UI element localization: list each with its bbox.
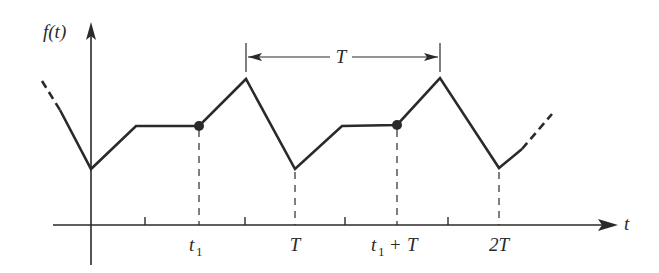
periodic-function-diagram: T f(t) t t 1 T t 1 + T 2T	[0, 0, 659, 273]
dashed-guides	[199, 130, 499, 225]
svg-text:t: t	[371, 234, 377, 255]
tick-label-2T: 2T	[489, 234, 511, 255]
x-axis-label: t	[624, 213, 630, 234]
point-t1	[194, 121, 204, 131]
y-axis-label: f(t)	[43, 21, 66, 43]
svg-text:t: t	[189, 234, 195, 255]
function-curve	[42, 78, 552, 169]
svg-text:+: +	[390, 234, 401, 255]
curve-dashed-left	[42, 81, 60, 110]
svg-text:T: T	[407, 234, 419, 255]
x-axis-ticks	[145, 217, 448, 225]
curve-solid	[60, 78, 522, 169]
point-t1-plus-T	[392, 120, 402, 130]
y-axis	[86, 22, 96, 265]
tick-label-t1-plus-T: t 1 + T	[371, 234, 419, 259]
curve-dashed-right	[522, 114, 552, 149]
svg-text:1: 1	[378, 244, 385, 259]
x-axis	[53, 219, 618, 231]
period-label: T	[336, 46, 348, 67]
tick-label-t1: t 1	[189, 234, 203, 259]
tick-label-T: T	[290, 234, 302, 255]
svg-text:1: 1	[196, 244, 203, 259]
